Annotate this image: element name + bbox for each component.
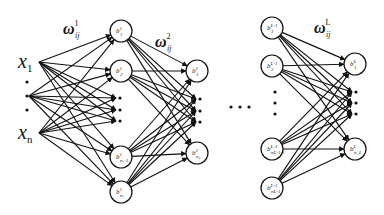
neuron-node (110, 20, 132, 42)
weight-label: ω1ij (63, 19, 80, 40)
ellipsis-dot (25, 80, 28, 83)
neuron-node (261, 55, 283, 77)
weight-label: ωLij (314, 18, 331, 39)
neuron-node (186, 60, 208, 82)
neuron-node (261, 17, 283, 39)
neuron-node (261, 177, 283, 199)
connection-arrow (283, 64, 344, 65)
ellipsis-dot (229, 105, 232, 108)
ellipsis-dot (247, 105, 250, 108)
weight-label: ω2ij (155, 32, 172, 53)
connection-edges (29, 32, 352, 187)
connection-arrow (127, 80, 191, 182)
connection-arrow (282, 69, 352, 92)
neuron-node (110, 146, 132, 168)
connection-arrow (131, 76, 196, 111)
ellipsis-dot (25, 94, 28, 97)
ellipsis-dot (273, 101, 276, 104)
connection-arrow (128, 79, 189, 149)
neuron-node (261, 138, 283, 160)
connection-arrow (39, 110, 116, 133)
ellipsis-dot (354, 90, 357, 93)
connection-arrow (39, 40, 114, 133)
input-label: x1 (17, 50, 32, 74)
neuron-node (186, 142, 208, 164)
ellipsis-dot (198, 109, 201, 112)
input-label: xn (17, 121, 33, 145)
neural-network-diagram: b11b12b1n₁-1b1n₁b21b2n₂bL-11bL-12bL-1nL-… (0, 0, 384, 215)
ellipsis-dot (198, 120, 201, 123)
connection-arrow (131, 122, 196, 152)
ellipsis-dot (354, 101, 357, 104)
ellipsis-dot (198, 97, 201, 100)
ellipsis-dot (354, 112, 357, 115)
connection-arrow (128, 111, 196, 184)
ellipsis-dot (118, 119, 121, 122)
neuron-node (110, 60, 132, 82)
neuron-node (110, 181, 132, 203)
connection-arrow (29, 74, 110, 96)
connection-arrow (281, 35, 352, 92)
connection-arrow (131, 75, 196, 99)
ellipsis-dot (25, 108, 28, 111)
connection-arrow (39, 133, 112, 186)
connection-arrow (39, 62, 116, 121)
ellipsis-dot (118, 96, 121, 99)
neuron-node (344, 53, 366, 75)
ellipsis-dot (238, 105, 241, 108)
connection-arrow (39, 78, 112, 133)
ellipsis-dot (118, 108, 121, 111)
ellipsis-dot (273, 90, 276, 93)
ellipsis-dot (273, 112, 276, 115)
neuron-node (344, 138, 366, 160)
